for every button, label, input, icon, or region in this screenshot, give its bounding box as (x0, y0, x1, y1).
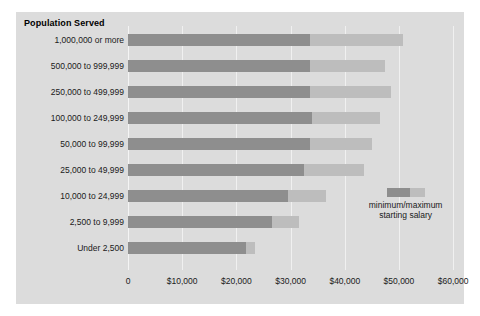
bar-segment-min (128, 138, 310, 150)
bar-segment-max (310, 86, 391, 98)
bar-segment-max (312, 112, 380, 124)
legend: minimum/maximum starting salary (346, 188, 466, 220)
bar-segment-min (128, 164, 304, 176)
bar-segment-max (304, 164, 364, 176)
legend-swatch (387, 188, 425, 197)
category-label: 100,000 to 249,999 (16, 113, 124, 123)
bar-segment-max (310, 34, 403, 46)
legend-swatch-max (410, 188, 425, 197)
bar-segment-min (128, 242, 246, 254)
bar-row (128, 164, 464, 176)
bar-segment-max (246, 242, 255, 254)
legend-label-line2: starting salary (346, 210, 466, 220)
category-label: Under 2,500 (16, 243, 124, 253)
category-label: 10,000 to 24,999 (16, 191, 124, 201)
category-label: 250,000 to 499,999 (16, 87, 124, 97)
bar-segment-min (128, 112, 312, 124)
bar-row (128, 138, 464, 150)
plot-area: 0$10,000$20,000$30,000$40,000$50,000$60,… (128, 26, 464, 276)
bar-segment-min (128, 216, 272, 228)
bar-segment-max (310, 60, 386, 72)
bar-segment-min (128, 190, 288, 202)
x-tick-label-50000: $50,000 (384, 276, 415, 286)
category-label: 50,000 to 99,999 (16, 139, 124, 149)
bar-row (128, 242, 464, 254)
bar-segment-min (128, 60, 310, 72)
chart-panel: Population Served 1,000,000 or more500,0… (16, 12, 464, 304)
category-label: 2,500 to 9,999 (16, 217, 124, 227)
category-label: 1,000,000 or more (16, 35, 124, 45)
category-label: 25,000 to 49,999 (16, 165, 124, 175)
legend-label-line1: minimum/maximum (346, 200, 466, 210)
category-label: 500,000 to 999,999 (16, 61, 124, 71)
category-axis: 1,000,000 or more500,000 to 999,999250,0… (16, 26, 124, 276)
bar-segment-min (128, 34, 310, 46)
chart-page: Population Served 1,000,000 or more500,0… (0, 0, 480, 316)
bar-segment-max (310, 138, 372, 150)
bar-row (128, 60, 464, 72)
bar-segment-max (288, 190, 326, 202)
bar-row (128, 112, 464, 124)
bar-segment-max (272, 216, 299, 228)
x-tick-label-60000: $60,000 (438, 276, 469, 286)
bar-segment-min (128, 86, 310, 98)
x-tick-label-10000: $10,000 (167, 276, 198, 286)
bar-row (128, 34, 464, 46)
legend-swatch-min (387, 188, 410, 197)
bar-row (128, 86, 464, 98)
x-tick-label-20000: $20,000 (221, 276, 252, 286)
x-tick-label-0: 0 (126, 276, 131, 286)
legend-label: minimum/maximum starting salary (346, 200, 466, 220)
x-tick-label-30000: $30,000 (275, 276, 306, 286)
x-tick-label-40000: $40,000 (329, 276, 360, 286)
